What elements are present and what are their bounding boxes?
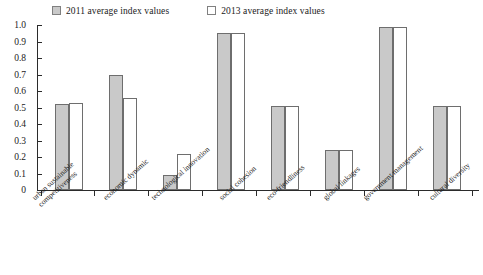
y-tick-0.6 <box>38 91 42 92</box>
legend-label-2011: 2011 average index values <box>66 6 169 16</box>
legend-swatch-gray-icon <box>52 6 61 15</box>
legend-entry-2011: 2011 average index values <box>52 6 169 16</box>
y-tick-label-0.5: 0.5 <box>14 103 26 113</box>
legend-swatch-white-icon <box>207 6 216 15</box>
x-minor-tick-3 <box>202 191 203 196</box>
y-tick-label-1.0: 1.0 <box>14 20 26 30</box>
y-tick-label-0.8: 0.8 <box>14 53 26 63</box>
bar-group-social-cohesion <box>217 25 245 190</box>
bar-2013-social-cohesion[interactable] <box>231 33 245 190</box>
y-tick-label-0.6: 0.6 <box>14 86 26 96</box>
bar-group-cultural-diversity <box>433 25 461 190</box>
y-tick-label-0.7: 0.7 <box>14 70 26 80</box>
y-tick-0.4 <box>38 124 42 125</box>
x-minor-tick-1 <box>94 191 95 196</box>
y-tick-label-0: 0 <box>21 185 26 195</box>
x-minor-tick-8 <box>472 191 473 196</box>
x-minor-tick-7 <box>418 191 419 196</box>
y-tick-0.8 <box>38 58 42 59</box>
y-tick-0.5 <box>38 108 42 109</box>
legend-entry-2013: 2013 average index values <box>207 6 325 16</box>
chart-legend: 2011 average index values 2013 average i… <box>52 3 325 18</box>
x-minor-tick-5 <box>310 191 311 196</box>
x-axis-line <box>37 190 479 191</box>
y-tick-label-0.4: 0.4 <box>14 119 26 129</box>
y-tick-label-0.3: 0.3 <box>14 136 26 146</box>
y-tick-0.7 <box>38 75 42 76</box>
bar-group-eco-friendliness <box>271 25 299 190</box>
bar-group-global-linkages <box>325 25 353 190</box>
bar-2011-economic-dynamic[interactable] <box>109 75 123 191</box>
legend-label-2013: 2013 average index values <box>221 6 325 16</box>
y-tick-0.9 <box>38 42 42 43</box>
y-tick-label-0.2: 0.2 <box>14 152 26 162</box>
bar-2011-government-management[interactable] <box>379 27 393 190</box>
x-minor-tick-4 <box>256 191 257 196</box>
y-tick-0.2 <box>38 157 42 158</box>
y-tick-1.0 <box>38 25 42 26</box>
y-tick-0.3 <box>38 141 42 142</box>
y-tick-label-0.1: 0.1 <box>14 169 26 179</box>
bar-2011-social-cohesion[interactable] <box>217 33 231 190</box>
plot-area: 1.0 0.9 0.8 0.7 0.6 0.5 0.4 0.3 0.2 0.1 … <box>37 25 479 190</box>
bar-chart-figure: 2011 average index values 2013 average i… <box>0 0 483 275</box>
bar-2011-cultural-diversity[interactable] <box>433 106 447 190</box>
y-tick-label-0.9: 0.9 <box>14 37 26 47</box>
y-tick-0.1 <box>38 174 42 175</box>
